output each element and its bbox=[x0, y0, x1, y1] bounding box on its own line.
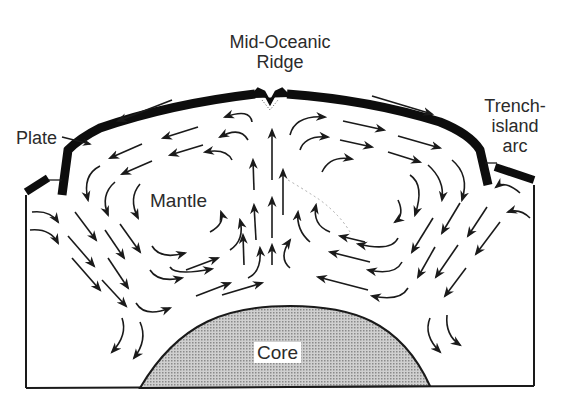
mantle-convection-diagram: Mid-Oceanic Ridge Plate Trench- island a… bbox=[0, 0, 569, 407]
mantle-label: Mantle bbox=[150, 190, 207, 211]
lithospheric-plates bbox=[26, 89, 534, 195]
trench-label-line2: island bbox=[470, 116, 560, 136]
trench-label: Trench- island arc bbox=[470, 96, 560, 156]
plate-label: Plate bbox=[16, 128, 57, 148]
core-label: Core bbox=[254, 342, 301, 363]
ridge-label: Mid-Oceanic Ridge bbox=[210, 32, 350, 72]
ridge-label-line2: Ridge bbox=[210, 52, 350, 72]
trench-label-line1: Trench- bbox=[470, 96, 560, 116]
trench-label-line3: arc bbox=[470, 136, 560, 156]
ridge-label-line1: Mid-Oceanic bbox=[210, 32, 350, 52]
